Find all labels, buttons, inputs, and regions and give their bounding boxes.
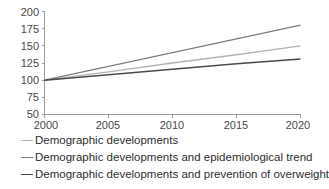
series-line-0 xyxy=(45,46,301,80)
plot-area: 200 175 150 125 100 75 50 xyxy=(0,0,329,132)
legend-swatch xyxy=(21,140,33,141)
legend-item-demographic-developments[interactable]: Demographic developments xyxy=(0,132,329,149)
y-tick-label: 175 xyxy=(21,23,39,35)
legend: Demographic developments Demographic dev… xyxy=(0,132,329,183)
series-group xyxy=(45,25,301,80)
legend-label: Demographic developments xyxy=(35,132,178,149)
legend-item-prevention-of-overweight[interactable]: Demographic developments and prevention … xyxy=(0,166,329,183)
legend-item-epidemiological-trend[interactable]: Demographic developments and epidemiolog… xyxy=(0,149,329,166)
x-axis-tick-labels: 2000 2005 2010 2015 2020 xyxy=(34,119,310,131)
x-tick-label: 2015 xyxy=(224,119,248,131)
series-line-2 xyxy=(45,59,301,80)
x-tick-label: 2000 xyxy=(34,119,58,131)
x-tick-label: 2020 xyxy=(286,119,310,131)
legend-swatch xyxy=(21,174,33,175)
x-tick-label: 2005 xyxy=(96,119,120,131)
series-line-1 xyxy=(45,25,301,80)
line-chart: 200 175 150 125 100 75 50 xyxy=(0,0,329,189)
x-tick-label: 2010 xyxy=(160,119,184,131)
y-axis-tick-labels: 200 175 150 125 100 75 50 xyxy=(21,6,39,120)
legend-label: Demographic developments and prevention … xyxy=(35,166,329,183)
legend-label: Demographic developments and epidemiolog… xyxy=(35,149,312,166)
legend-swatch xyxy=(21,157,33,158)
y-tick-label: 125 xyxy=(21,57,39,69)
y-tick-label: 150 xyxy=(21,40,39,52)
y-tick-label: 100 xyxy=(21,74,39,86)
y-tick-label: 200 xyxy=(21,6,39,18)
y-tick-label: 75 xyxy=(27,91,39,103)
